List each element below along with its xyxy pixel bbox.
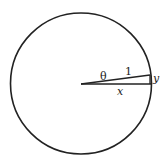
opposite-label: y xyxy=(152,72,160,85)
hypotenuse-side xyxy=(81,75,150,84)
angle-theta-label: θ xyxy=(100,70,107,83)
adjacent-label: x xyxy=(117,85,124,98)
unit-circle-diagram: θ 1 y x xyxy=(0,0,166,165)
hypotenuse-label: 1 xyxy=(125,65,132,78)
